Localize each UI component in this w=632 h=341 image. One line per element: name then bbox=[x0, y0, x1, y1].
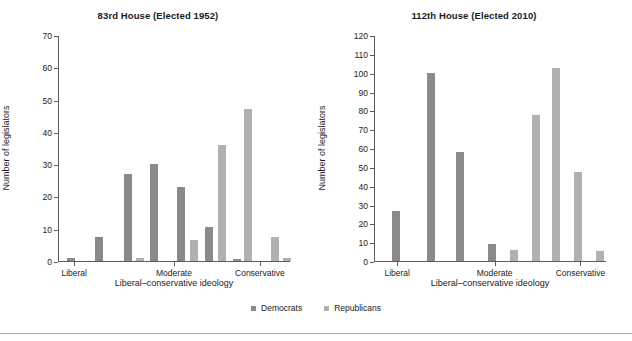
bar-republicans bbox=[574, 172, 582, 261]
figure-two-panel-bar-charts: 83rd House (Elected 1952) Number of legi… bbox=[0, 0, 632, 341]
y-tick-label: 40 bbox=[43, 129, 52, 138]
y-tick-label: 50 bbox=[43, 96, 52, 105]
plot-area-83rd: 010203040506070 LiberalModerateConservat… bbox=[58, 36, 290, 262]
y-tick-label: 0 bbox=[47, 258, 52, 267]
bar-democrats bbox=[205, 227, 213, 261]
y-tick-label: 120 bbox=[354, 32, 368, 41]
y-tick-label: 40 bbox=[359, 182, 368, 191]
bar-republicans bbox=[596, 251, 604, 261]
panel-83rd-house: 83rd House (Elected 1952) Number of legi… bbox=[0, 0, 316, 300]
y-tick-label: 10 bbox=[43, 225, 52, 234]
y-tick-label: 110 bbox=[354, 51, 368, 60]
bar-republicans bbox=[244, 109, 252, 261]
y-tick-label: 100 bbox=[354, 69, 368, 78]
bar-republicans bbox=[283, 258, 291, 261]
chart-legend: Democrats Republicans bbox=[0, 303, 632, 313]
y-tick-label: 60 bbox=[43, 64, 52, 73]
bottom-divider bbox=[0, 333, 632, 334]
legend-label-democrats: Democrats bbox=[261, 303, 302, 313]
x-tick-label: Liberal bbox=[61, 269, 87, 278]
bar-republicans bbox=[271, 237, 279, 261]
x-tick-mark bbox=[174, 262, 175, 266]
bar-democrats bbox=[150, 164, 158, 261]
bar-democrats bbox=[233, 259, 241, 261]
y-axis-title-112th: Number of legislators bbox=[317, 105, 327, 190]
legend-swatch-republicans-icon bbox=[324, 306, 329, 311]
bar-republicans bbox=[136, 258, 144, 261]
bar-republicans bbox=[532, 115, 540, 261]
bar-republicans bbox=[510, 250, 518, 261]
legend-item-democrats: Democrats bbox=[251, 303, 302, 313]
bar-democrats bbox=[67, 258, 75, 261]
bar-democrats bbox=[95, 237, 103, 261]
x-tick-label: Liberal bbox=[384, 269, 410, 278]
bar-democrats bbox=[392, 211, 400, 261]
y-tick-label: 70 bbox=[43, 32, 52, 41]
y-tick-label: 90 bbox=[359, 88, 368, 97]
y-tick-mark bbox=[370, 262, 374, 263]
x-axis-title-112th: Liberal–conservative ideology bbox=[374, 278, 606, 288]
y-tick-label: 20 bbox=[359, 220, 368, 229]
x-tick-mark bbox=[580, 262, 581, 266]
panel-112th-house: 112th House (Elected 2010) Number of leg… bbox=[316, 0, 632, 300]
bar-democrats bbox=[177, 187, 185, 261]
y-tick-label: 20 bbox=[43, 193, 52, 202]
y-tick-mark bbox=[54, 262, 58, 263]
x-tick-label: Conservative bbox=[556, 269, 606, 278]
y-axis-title-83rd: Number of legislators bbox=[1, 105, 11, 190]
panel-title-83rd: 83rd House (Elected 1952) bbox=[0, 10, 316, 21]
legend-swatch-democrats-icon bbox=[251, 306, 256, 311]
y-tick-label: 80 bbox=[359, 107, 368, 116]
legend-item-republicans: Republicans bbox=[324, 303, 381, 313]
y-tick-label: 30 bbox=[359, 201, 368, 210]
bar-democrats bbox=[488, 244, 496, 261]
bars-112th bbox=[374, 36, 606, 262]
x-tick-label: Moderate bbox=[477, 269, 513, 278]
x-tick-label: Conservative bbox=[235, 269, 285, 278]
bars-83rd bbox=[58, 36, 290, 262]
bar-democrats bbox=[456, 152, 464, 261]
plot-area-112th: 0102030405060708090100110120 LiberalMode… bbox=[374, 36, 606, 262]
x-axis-title-83rd: Liberal–conservative ideology bbox=[58, 278, 290, 288]
x-tick-mark bbox=[397, 262, 398, 266]
y-tick-label: 50 bbox=[359, 164, 368, 173]
x-tick-mark bbox=[260, 262, 261, 266]
legend-label-republicans: Republicans bbox=[334, 303, 381, 313]
bar-republicans bbox=[190, 240, 198, 261]
bar-democrats bbox=[124, 174, 132, 261]
panel-title-112th: 112th House (Elected 2010) bbox=[316, 10, 632, 21]
bar-democrats bbox=[427, 73, 435, 261]
y-tick-label: 70 bbox=[359, 126, 368, 135]
bar-republicans bbox=[218, 145, 226, 261]
x-tick-label: Moderate bbox=[156, 269, 192, 278]
y-tick-label: 0 bbox=[363, 258, 368, 267]
y-tick-label: 10 bbox=[359, 239, 368, 248]
x-tick-mark bbox=[495, 262, 496, 266]
y-tick-label: 30 bbox=[43, 161, 52, 170]
x-tick-mark bbox=[74, 262, 75, 266]
y-tick-label: 60 bbox=[359, 145, 368, 154]
bar-republicans bbox=[552, 68, 560, 261]
